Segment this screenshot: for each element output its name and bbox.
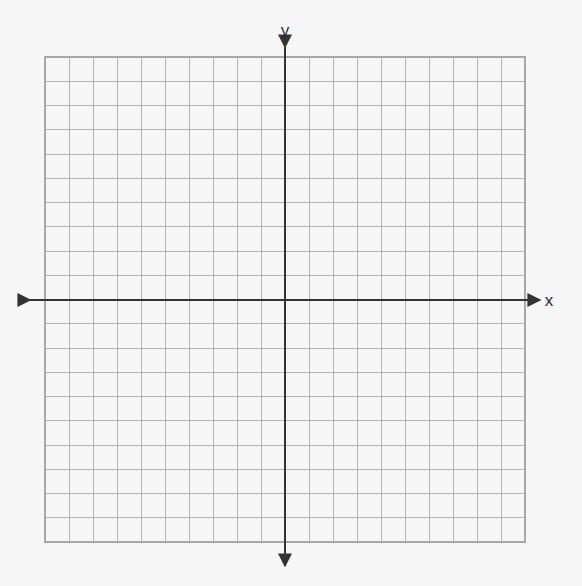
coordinate-plane-figure: y x <box>0 0 582 586</box>
y-axis-label: y <box>281 21 290 40</box>
x-axis-label: x <box>545 291 554 310</box>
figure-background <box>0 0 582 586</box>
coordinate-plane-svg: y x <box>0 0 582 586</box>
